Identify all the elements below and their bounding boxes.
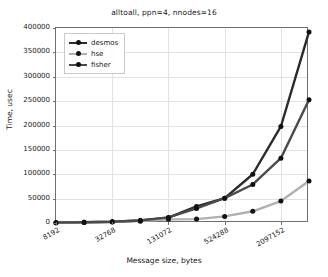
data-point-fisher	[222, 196, 227, 201]
series-line-hse	[56, 181, 309, 223]
chart-legend: desmoshsefisher	[64, 33, 125, 74]
y-tick-mark	[53, 28, 56, 29]
data-point-fisher	[138, 218, 143, 223]
x-tick-mark	[112, 222, 113, 225]
legend-item-hse[interactable]: hse	[69, 48, 118, 59]
legend-label: fisher	[91, 61, 111, 69]
plot-area: desmoshsefisher	[55, 27, 308, 222]
legend-item-fisher[interactable]: fisher	[69, 59, 118, 70]
x-tick-mark	[281, 222, 282, 225]
chart-figure: alltoall, ppn=4, nnodes=16 desmoshsefish…	[0, 0, 328, 277]
data-point-desmos	[307, 29, 312, 34]
x-tick-label: 131072	[140, 226, 173, 250]
x-axis-title: Message size, bytes	[0, 256, 328, 265]
legend-marker-icon	[69, 49, 87, 58]
y-tick-mark	[53, 174, 56, 175]
data-point-fisher	[194, 206, 199, 211]
legend-label: desmos	[91, 39, 118, 47]
data-point-hse	[250, 209, 255, 214]
data-point-fisher	[278, 156, 283, 161]
x-tick-mark	[168, 222, 169, 225]
y-tick-mark	[53, 126, 56, 127]
x-tick-mark	[56, 222, 57, 225]
y-tick-mark	[53, 52, 56, 53]
data-point-desmos	[250, 172, 255, 177]
x-tick-label: 8192	[28, 226, 61, 250]
y-tick-label: 400000	[0, 23, 50, 31]
y-tick-label: 50000	[0, 194, 50, 202]
series-fisher	[54, 97, 312, 225]
data-point-fisher	[250, 182, 255, 187]
chart-title: alltoall, ppn=4, nnodes=16	[0, 8, 328, 17]
data-point-fisher	[166, 215, 171, 220]
data-point-fisher	[307, 97, 312, 102]
y-axis-title: Time, usec	[5, 45, 14, 175]
x-tick-label: 2097152	[252, 226, 285, 250]
y-tick-mark	[53, 150, 56, 151]
y-tick-mark	[53, 101, 56, 102]
data-point-desmos	[278, 124, 283, 129]
data-point-hse	[307, 179, 312, 184]
legend-marker-icon	[69, 60, 87, 69]
x-tick-label: 524288	[196, 226, 229, 250]
series-hse	[54, 179, 312, 226]
data-point-hse	[194, 217, 199, 222]
y-tick-mark	[53, 199, 56, 200]
data-point-hse	[222, 214, 227, 219]
x-tick-mark	[225, 222, 226, 225]
x-tick-label: 32768	[84, 226, 117, 250]
data-point-fisher	[82, 220, 87, 225]
legend-marker-icon	[69, 38, 87, 47]
legend-item-desmos[interactable]: desmos	[69, 37, 118, 48]
y-tick-mark	[53, 77, 56, 78]
legend-label: hse	[91, 50, 103, 58]
y-tick-label: 0	[0, 218, 50, 226]
data-point-hse	[278, 199, 283, 204]
